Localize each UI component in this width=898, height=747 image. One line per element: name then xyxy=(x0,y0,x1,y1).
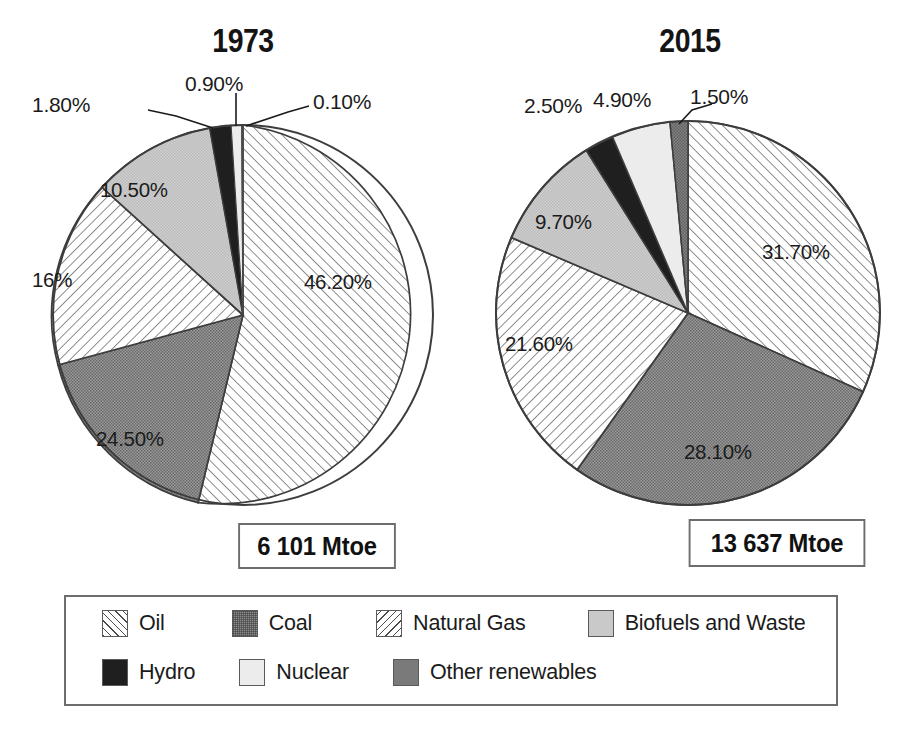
legend-swatch-oil-icon xyxy=(102,610,128,637)
pct-label-nuclear-2015: 4.90% xyxy=(593,88,651,112)
chart-title-1973: 1973 xyxy=(157,22,329,60)
legend-item-biofuels-and-waste[interactable]: Biofuels and Waste xyxy=(588,610,806,637)
pct-label-hydro-1973: 1.80% xyxy=(32,93,90,117)
pct-label-gas-2015: 21.60% xyxy=(505,332,573,356)
legend-item-hydro[interactable]: Hydro xyxy=(102,659,195,686)
pct-label-other-1973: 0.10% xyxy=(313,90,371,114)
pie-chart-figure: 1973 2015 1.80% 0.90% 0.10% 10.50% 16% 2… xyxy=(0,0,898,747)
legend-row-2: Hydro Nuclear Other renewables xyxy=(102,659,597,686)
legend-label-nuclear: Nuclear xyxy=(276,660,349,685)
pct-label-gas-1973: 16% xyxy=(32,268,72,292)
pct-label-oil-2015: 31.70% xyxy=(762,240,830,264)
legend-swatch-biofuels-and-waste-icon xyxy=(588,610,614,637)
legend-swatch-other-renewables-icon xyxy=(393,659,419,686)
legend-item-oil[interactable]: Oil xyxy=(102,610,165,637)
legend-label-oil: Oil xyxy=(139,611,165,636)
pies-svg xyxy=(0,0,898,560)
legend-row-1: Oil Coal Natural Gas Biofuels and Waste xyxy=(102,610,805,637)
chart-title-2015: 2015 xyxy=(604,22,776,60)
legend-label-natural-gas: Natural Gas xyxy=(413,611,526,636)
legend: Oil Coal Natural Gas Biofuels and Waste … xyxy=(64,595,838,706)
pct-label-coal-1973: 24.50% xyxy=(96,427,164,451)
legend-label-hydro: Hydro xyxy=(139,660,195,685)
pct-label-hydro-2015: 2.50% xyxy=(524,94,582,118)
legend-swatch-natural-gas-icon xyxy=(376,610,402,637)
legend-label-biofuels-and-waste: Biofuels and Waste xyxy=(625,611,806,636)
legend-item-coal[interactable]: Coal xyxy=(232,610,312,637)
pct-label-nuclear-1973: 0.90% xyxy=(185,72,243,96)
legend-swatch-nuclear-icon xyxy=(239,659,265,686)
legend-label-other-renewables: Other renewables xyxy=(430,660,597,685)
pct-label-coal-2015: 28.10% xyxy=(684,440,752,464)
total-box-1973: 6 101 Mtoe xyxy=(238,523,396,569)
legend-swatch-coal-icon xyxy=(232,610,258,637)
legend-item-nuclear[interactable]: Nuclear xyxy=(239,659,349,686)
total-label-2015: 13 637 Mtoe xyxy=(711,529,844,558)
total-box-2015: 13 637 Mtoe xyxy=(689,519,866,567)
legend-label-coal: Coal xyxy=(269,611,312,636)
pct-label-biofuels-2015: 9.70% xyxy=(535,210,592,234)
pct-label-biofuels-1973: 10.50% xyxy=(100,178,168,202)
legend-swatch-hydro-icon xyxy=(102,659,128,686)
pct-label-other-2015: 1.50% xyxy=(690,85,748,109)
legend-item-other-renewables[interactable]: Other renewables xyxy=(393,659,597,686)
leader-line-hydro-1973 xyxy=(148,110,213,128)
leader-lines-1973 xyxy=(148,93,309,128)
pct-label-oil-1973: 46.20% xyxy=(304,270,372,294)
leader-line-other-1973 xyxy=(246,106,309,126)
legend-item-natural-gas[interactable]: Natural Gas xyxy=(376,610,526,637)
total-label-1973: 6 101 Mtoe xyxy=(257,532,377,561)
